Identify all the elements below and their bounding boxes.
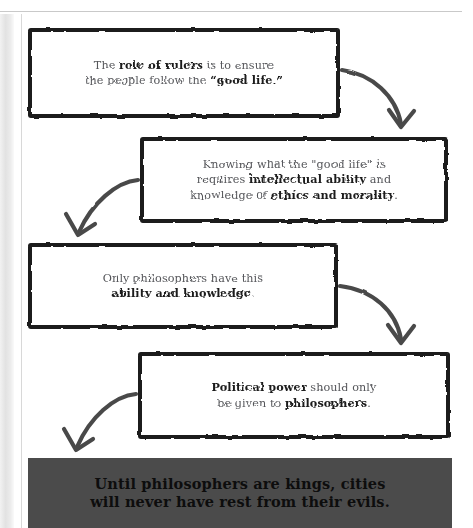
text-segment: Only philosophers have this xyxy=(103,272,263,285)
text-segment: knowledge of xyxy=(190,189,271,202)
text-segment-emphasis: “good life.” xyxy=(210,73,283,87)
text-segment: . xyxy=(367,397,371,410)
arrow-step2-to-step3 xyxy=(66,180,138,235)
flow-box-role-of-rulers: The role of rulers is to ensure the peop… xyxy=(28,28,340,118)
flow-box-only-philosophers-have-this: Only philosophers have this ability and … xyxy=(28,243,338,329)
arrow-step4-to-conclusion xyxy=(64,394,136,450)
flow-box-text: Political power should only be given to … xyxy=(198,380,391,411)
diagram-page: The role of rulers is to ensure the peop… xyxy=(0,0,473,528)
text-segment: the people follow the xyxy=(85,74,210,87)
arrow-step3-to-step4 xyxy=(340,286,414,343)
text-segment-emphasis: ability and knowledge xyxy=(111,286,251,300)
text-segment: Knowing what the "good life" is xyxy=(203,158,385,171)
text-segment-emphasis: ethics and morality xyxy=(271,188,394,202)
text-segment-emphasis: role of rulers xyxy=(119,58,203,72)
text-segment: should only xyxy=(307,381,377,394)
page-gutter-shadow xyxy=(0,14,14,528)
conclusion-line-2: will never have rest from their evils. xyxy=(90,493,390,510)
text-segment-emphasis: Political power xyxy=(212,380,307,394)
flow-box-political-power-to-philosophers: Political power should only be given to … xyxy=(138,352,450,439)
flow-box-good-life-requires-knowledge: Knowing what the "good life" is requires… xyxy=(140,137,448,223)
flow-box-text: Only philosophers have this ability and … xyxy=(89,271,277,302)
arrow-step1-to-step2 xyxy=(342,70,414,127)
text-segment: and xyxy=(366,173,391,186)
text-segment: requires xyxy=(197,173,249,186)
text-segment: . xyxy=(251,287,255,300)
conclusion-line-1: Until philosophers are kings, cities xyxy=(94,475,385,492)
conclusion-banner: Until philosophers are kings, cities wil… xyxy=(28,458,452,528)
top-horizontal-rule xyxy=(0,11,462,12)
conclusion-banner-text: Until philosophers are kings, cities wil… xyxy=(90,475,390,511)
text-segment: be given to xyxy=(217,397,285,410)
text-segment-emphasis: philosophers xyxy=(285,396,367,410)
text-segment: is to ensure xyxy=(203,59,274,72)
text-segment: . xyxy=(394,189,398,202)
text-segment: The xyxy=(94,59,119,72)
text-segment-emphasis: intellectual ability xyxy=(249,172,366,186)
page-gutter-line xyxy=(21,14,22,528)
flow-box-text: The role of rulers is to ensure the peop… xyxy=(71,58,297,89)
flow-box-text: Knowing what the "good life" is requires… xyxy=(176,157,412,204)
